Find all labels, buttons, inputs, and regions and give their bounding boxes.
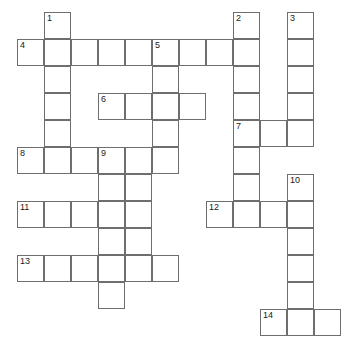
crossword-cell[interactable] <box>125 255 152 282</box>
crossword-cell[interactable] <box>152 93 179 120</box>
crossword-cell[interactable] <box>233 39 260 66</box>
crossword-cell[interactable] <box>287 228 314 255</box>
crossword-cell[interactable] <box>152 120 179 147</box>
crossword-cell-numbered[interactable]: 12 <box>206 201 233 228</box>
crossword-cell[interactable] <box>98 174 125 201</box>
cell-number-label: 11 <box>20 202 29 213</box>
crossword-cell-numbered[interactable]: 3 <box>287 12 314 39</box>
cell-number-label: 9 <box>101 148 106 159</box>
crossword-cell[interactable] <box>98 228 125 255</box>
cell-number-label: 1 <box>47 13 52 24</box>
crossword-cell-numbered[interactable]: 1 <box>44 12 71 39</box>
crossword-cell-numbered[interactable]: 2 <box>233 12 260 39</box>
crossword-cell[interactable] <box>152 66 179 93</box>
crossword-cell[interactable] <box>71 201 98 228</box>
crossword-cell[interactable] <box>125 174 152 201</box>
crossword-cell[interactable] <box>44 66 71 93</box>
crossword-cell[interactable] <box>287 39 314 66</box>
crossword-cell[interactable] <box>44 255 71 282</box>
crossword-cell[interactable] <box>125 228 152 255</box>
crossword-cell-numbered[interactable]: 13 <box>17 255 44 282</box>
crossword-puzzle: 1234567891011121314 <box>0 0 358 337</box>
cell-number-label: 6 <box>101 94 106 105</box>
cell-number-label: 4 <box>20 40 25 51</box>
cell-number-label: 7 <box>236 121 241 132</box>
crossword-cell[interactable] <box>125 147 152 174</box>
crossword-cell-numbered[interactable]: 6 <box>98 93 125 120</box>
crossword-cell[interactable] <box>260 120 287 147</box>
crossword-cell[interactable] <box>314 309 341 336</box>
crossword-cell-numbered[interactable]: 11 <box>17 201 44 228</box>
crossword-cell[interactable] <box>125 93 152 120</box>
cell-number-label: 12 <box>209 202 219 213</box>
crossword-cell[interactable] <box>233 93 260 120</box>
crossword-cell[interactable] <box>287 282 314 309</box>
crossword-cell[interactable] <box>287 93 314 120</box>
crossword-cell[interactable] <box>98 201 125 228</box>
crossword-cell[interactable] <box>125 201 152 228</box>
cell-number-label: 2 <box>236 13 241 24</box>
cell-number-label: 5 <box>155 40 160 51</box>
crossword-cell[interactable] <box>233 201 260 228</box>
crossword-cell[interactable] <box>206 39 233 66</box>
crossword-cell[interactable] <box>44 201 71 228</box>
crossword-cell[interactable] <box>179 39 206 66</box>
crossword-cell[interactable] <box>152 255 179 282</box>
crossword-cell[interactable] <box>44 39 71 66</box>
crossword-cell[interactable] <box>233 174 260 201</box>
crossword-cell-numbered[interactable]: 4 <box>17 39 44 66</box>
crossword-cell[interactable] <box>71 255 98 282</box>
crossword-cell[interactable] <box>287 255 314 282</box>
crossword-cell[interactable] <box>287 120 314 147</box>
crossword-cell[interactable] <box>44 147 71 174</box>
crossword-cell[interactable] <box>260 201 287 228</box>
crossword-cell-numbered[interactable]: 10 <box>287 174 314 201</box>
crossword-cell[interactable] <box>71 147 98 174</box>
crossword-cell[interactable] <box>233 147 260 174</box>
crossword-cell[interactable] <box>287 66 314 93</box>
cell-number-label: 14 <box>263 310 273 321</box>
crossword-cell[interactable] <box>98 255 125 282</box>
crossword-cell[interactable] <box>44 93 71 120</box>
crossword-cell[interactable] <box>98 39 125 66</box>
crossword-cell[interactable] <box>125 39 152 66</box>
cell-number-label: 13 <box>20 256 30 267</box>
crossword-cell[interactable] <box>287 309 314 336</box>
crossword-cell-numbered[interactable]: 5 <box>152 39 179 66</box>
crossword-cell[interactable] <box>44 120 71 147</box>
crossword-cell[interactable] <box>287 201 314 228</box>
crossword-cell[interactable] <box>71 39 98 66</box>
crossword-cell[interactable] <box>233 66 260 93</box>
crossword-cell-numbered[interactable]: 9 <box>98 147 125 174</box>
crossword-cell-numbered[interactable]: 7 <box>233 120 260 147</box>
crossword-cell[interactable] <box>98 282 125 309</box>
crossword-cell[interactable] <box>152 147 179 174</box>
cell-number-label: 8 <box>20 148 25 159</box>
crossword-cell-numbered[interactable]: 14 <box>260 309 287 336</box>
crossword-cell-numbered[interactable]: 8 <box>17 147 44 174</box>
cell-number-label: 10 <box>290 175 300 186</box>
crossword-cell[interactable] <box>179 93 206 120</box>
cell-number-label: 3 <box>290 13 295 24</box>
